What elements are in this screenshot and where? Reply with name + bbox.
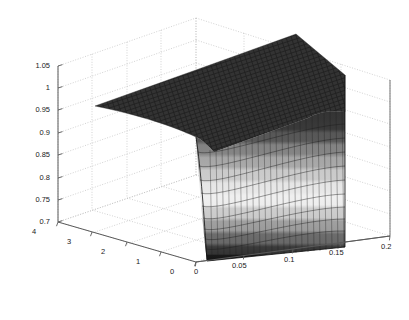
z-tick-label-0.8: 0.8 [17,174,50,182]
y-tick-label-3: 3 [67,238,71,246]
z-tick-label-1.05: 1.05 [17,62,50,70]
surface-plot-canvas [0,0,409,320]
z-tick-label-0.9: 0.9 [17,129,50,137]
y-tick-label-0: 0 [170,268,174,276]
z-tick-label-1: 1 [17,84,50,92]
x-tick-label-0: 0 [194,268,198,276]
surface-mesh [95,34,345,261]
x-tick-label-0.05: 0.05 [232,262,247,270]
y-tick-label-4: 4 [32,228,36,236]
x-tick-label-0.1: 0.1 [284,256,294,264]
x-tick-label-0.2: 0.2 [381,243,391,251]
y-tick-label-2: 2 [101,248,105,256]
z-tick-label-0.7: 0.7 [17,218,50,226]
y-tick-label-1: 1 [136,258,140,266]
z-tick-label-0.85: 0.85 [17,151,50,159]
z-tick-label-0.75: 0.75 [17,196,50,204]
x-tick-label-0.15: 0.15 [329,249,344,257]
z-tick-label-0.95: 0.95 [17,106,50,114]
surface-plot-figure: 1.05 1 0.95 0.9 0.85 0.8 0.75 0.7 4 3 2 … [0,0,409,320]
